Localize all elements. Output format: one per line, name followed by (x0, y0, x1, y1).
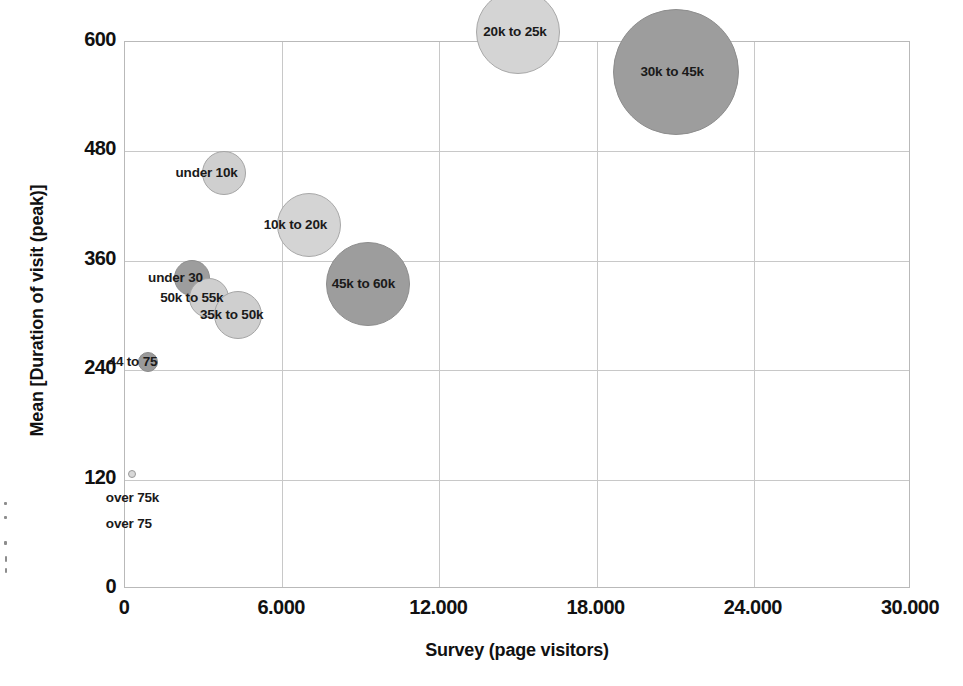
y-axis-tick-label: 120 (6, 466, 116, 489)
bubble-label: 30k to 45k (641, 64, 704, 79)
x-axis-tick-label: 0 (54, 596, 194, 619)
bubble-chart: over 75kover 7544 to 75under 3050k to 55… (0, 0, 963, 686)
y-axis-tick-label: 240 (6, 356, 116, 379)
x-axis-tick-label: 12.000 (368, 596, 508, 619)
gridline-vertical (439, 42, 440, 587)
y-axis-tick-label: 0 (6, 575, 116, 598)
y-axis-tick-label: 360 (6, 247, 116, 270)
bubble-label: 35k to 50k (200, 307, 263, 322)
bubble-label: 50k to 55k (160, 290, 223, 305)
x-axis-tick-label: 30.000 (840, 596, 963, 619)
bubble-label: under 30 (148, 270, 203, 285)
y-axis-tick-label: 600 (6, 28, 116, 51)
x-axis-tick-label: 24.000 (683, 596, 823, 619)
gridline-vertical (597, 42, 598, 587)
scan-speck (4, 502, 7, 505)
gridline-horizontal (125, 480, 909, 481)
bubble-label: over 75k (106, 490, 159, 505)
x-axis-tick-label: 18.000 (526, 596, 666, 619)
scan-speck (5, 568, 7, 573)
x-axis-title: Survey (page visitors) (124, 640, 910, 661)
scan-speck (4, 541, 7, 545)
bubble-label: over 75 (106, 516, 152, 531)
bubble-label: 20k to 25k (483, 24, 546, 39)
gridline-horizontal (125, 151, 909, 152)
y-axis-title: Mean [Duration of visit (peak)] (27, 31, 48, 591)
bubble-label: under 10k (176, 165, 238, 180)
bubble-label: 10k to 20k (264, 217, 327, 232)
gridline-horizontal (125, 370, 909, 371)
gridline-vertical (282, 42, 283, 587)
gridline-horizontal (125, 261, 909, 262)
gridline-vertical (754, 42, 755, 587)
scan-speck (5, 556, 7, 562)
bubble-label: 45k to 60k (332, 276, 395, 291)
scan-speck (4, 516, 7, 519)
y-axis-tick-label: 480 (6, 137, 116, 160)
x-axis-tick-label: 6.000 (211, 596, 351, 619)
